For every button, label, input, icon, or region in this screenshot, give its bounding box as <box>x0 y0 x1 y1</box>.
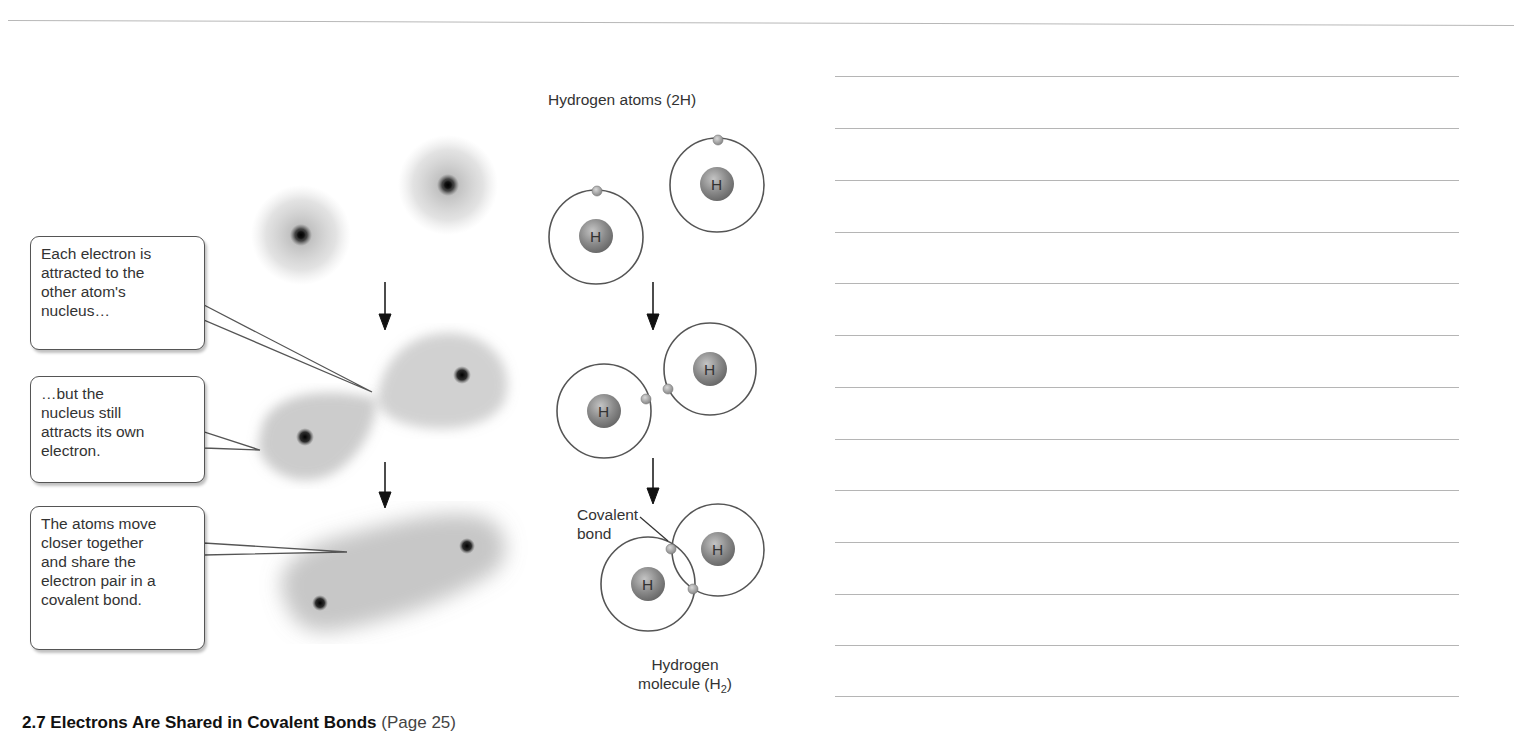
note-line <box>835 283 1459 284</box>
cloud-atom-right <box>398 135 498 235</box>
cloud-molecule <box>281 514 506 632</box>
note-line <box>835 696 1459 697</box>
covalent-bond-label: bond <box>577 524 611 543</box>
caption-page-ref: (Page 25) <box>381 713 456 732</box>
covalent-bond-label: Covalent <box>577 505 638 524</box>
note-line <box>835 439 1459 440</box>
callout-nucleus-own-electron: …but the nucleus still attracts its own … <box>30 376 205 483</box>
figure-caption: 2.7 Electrons Are Shared in Covalent Bon… <box>22 713 456 732</box>
note-line <box>835 128 1459 129</box>
nucleus-upper <box>453 366 471 384</box>
arrow-down-icon <box>379 462 391 508</box>
molecule-label-line1: Hydrogen <box>610 655 760 674</box>
note-line <box>835 335 1459 336</box>
nucleus-symbol: H <box>598 402 609 421</box>
arrow-down-icon <box>379 282 391 330</box>
callout-shared-pair: The atoms move closer together and share… <box>30 506 205 650</box>
molecule-nucleus-right <box>459 538 475 554</box>
molecule-label-prefix: molecule (H <box>638 675 721 692</box>
hydrogen-molecule-label: Hydrogen molecule (H2) <box>610 655 760 699</box>
note-line <box>835 490 1459 491</box>
molecule-label-line2: molecule (H2) <box>610 674 760 699</box>
nucleus-symbol: H <box>711 175 722 194</box>
nucleus-symbol: H <box>704 360 715 379</box>
nucleus-symbol: H <box>712 540 723 559</box>
nucleus-lower <box>296 428 314 446</box>
nucleus-symbol: H <box>590 227 601 246</box>
nucleus-symbol: H <box>642 575 653 594</box>
note-line <box>835 387 1459 388</box>
note-line <box>835 76 1459 77</box>
note-line <box>835 594 1459 595</box>
hydrogen-atoms-title: Hydrogen atoms (2H) <box>548 90 696 109</box>
note-line <box>835 180 1459 181</box>
molecule-nucleus-left <box>312 595 328 611</box>
cloud-atom-left <box>251 185 351 285</box>
note-line <box>835 542 1459 543</box>
callout-electron-attraction: Each electron is attracted to the other … <box>30 236 205 350</box>
cloud-approaching-upper <box>378 333 508 429</box>
cloud-approaching-lower <box>258 392 376 480</box>
note-line <box>835 645 1459 646</box>
caption-title: 2.7 Electrons Are Shared in Covalent Bon… <box>22 713 377 732</box>
arrow-down-icon <box>647 282 659 330</box>
note-line <box>835 232 1459 233</box>
arrow-down-icon <box>647 458 659 504</box>
molecule-label-suffix: ) <box>727 675 732 692</box>
